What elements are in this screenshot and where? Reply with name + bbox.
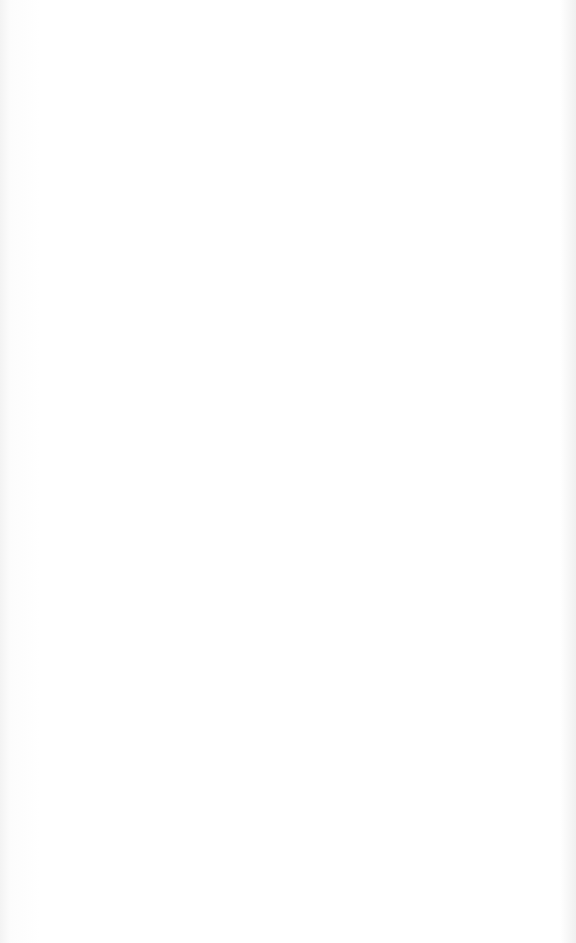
lined-paper-page	[0, 0, 576, 943]
